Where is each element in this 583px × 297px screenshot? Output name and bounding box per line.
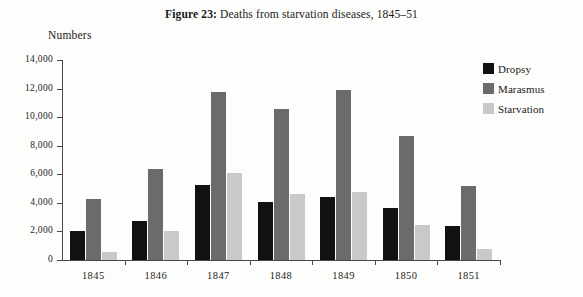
y-axis-tick-label: 4,000: [30, 197, 53, 207]
x-axis-tick: [375, 260, 376, 265]
legend-swatch-icon: [483, 83, 494, 94]
y-axis-tick-label: 10,000: [25, 111, 53, 121]
bar-dropsy-1845: [70, 231, 85, 260]
x-axis-tick: [312, 260, 313, 265]
y-axis-tick-label: 8,000: [30, 140, 53, 150]
x-axis-tick: [187, 260, 188, 265]
x-axis-tick-label: 1848: [250, 270, 313, 281]
figure-caption: Deaths from starvation diseases, 1845–51: [220, 8, 418, 20]
x-axis-tick-label: 1849: [312, 270, 375, 281]
x-axis-tick-label: 1847: [187, 270, 250, 281]
bar-marasmus-1848: [274, 109, 289, 260]
chart-legend: DropsyMarasmusStarvation: [483, 62, 583, 122]
figure-number: Figure 23:: [165, 8, 217, 20]
x-axis-tick-label: 1851: [437, 270, 500, 281]
x-axis-tick: [250, 260, 251, 265]
y-axis-tick: [57, 231, 62, 232]
bar-starvation-1845: [102, 252, 117, 260]
bar-dropsy-1847: [195, 185, 210, 260]
legend-label: Dropsy: [498, 63, 531, 75]
y-axis-tick-label: 12,000: [25, 83, 53, 93]
x-axis-tick-label: 1846: [125, 270, 188, 281]
y-axis-tick: [57, 117, 62, 118]
legend-swatch-icon: [483, 63, 494, 74]
plot-area: 02,0004,0006,0008,00010,00012,00014,000 …: [62, 60, 500, 260]
bar-dropsy-1849: [320, 197, 335, 260]
bar-marasmus-1846: [148, 169, 163, 260]
y-axis-tick: [57, 260, 62, 261]
bar-starvation-1849: [352, 192, 367, 260]
figure-container: Figure 23: Deaths from starvation diseas…: [0, 0, 583, 297]
y-axis-title: Numbers: [48, 29, 92, 41]
legend-swatch-icon: [483, 103, 494, 114]
bar-starvation-1846: [164, 231, 179, 260]
bar-marasmus-1850: [399, 136, 414, 260]
bar-marasmus-1847: [211, 92, 226, 260]
bar-dropsy-1850: [383, 208, 398, 260]
y-axis-tick-label: 14,000: [25, 54, 53, 64]
x-axis-tick: [125, 260, 126, 265]
bar-starvation-1848: [290, 194, 305, 260]
y-axis-tick-label: 2,000: [30, 225, 53, 235]
x-axis-tick-label: 1850: [375, 270, 438, 281]
bar-marasmus-1851: [461, 186, 476, 260]
bar-dropsy-1851: [445, 226, 460, 260]
bar-starvation-1847: [227, 173, 242, 260]
y-axis-tick: [57, 203, 62, 204]
bar-marasmus-1849: [336, 90, 351, 260]
x-axis-tick-label: 1845: [62, 270, 125, 281]
y-axis-tick: [57, 174, 62, 175]
legend-item-marasmus: Marasmus: [483, 82, 583, 95]
y-axis-tick: [57, 60, 62, 61]
legend-label: Starvation: [498, 103, 544, 115]
bar-dropsy-1846: [132, 221, 147, 260]
legend-item-dropsy: Dropsy: [483, 62, 583, 75]
bar-dropsy-1848: [258, 202, 273, 260]
bar-starvation-1851: [477, 249, 492, 260]
x-axis-tick: [437, 260, 438, 265]
y-axis-tick: [57, 146, 62, 147]
figure-title: Figure 23: Deaths from starvation diseas…: [0, 8, 583, 20]
y-axis-tick: [57, 89, 62, 90]
y-axis-tick-label: 6,000: [30, 168, 53, 178]
bar-starvation-1850: [415, 225, 430, 260]
bar-marasmus-1845: [86, 199, 101, 260]
x-axis-line: [62, 260, 500, 261]
legend-label: Marasmus: [498, 83, 545, 95]
x-axis-tick: [500, 260, 501, 265]
y-axis-line: [62, 60, 63, 260]
y-axis-tick-label: 0: [48, 254, 53, 264]
legend-item-starvation: Starvation: [483, 102, 583, 115]
